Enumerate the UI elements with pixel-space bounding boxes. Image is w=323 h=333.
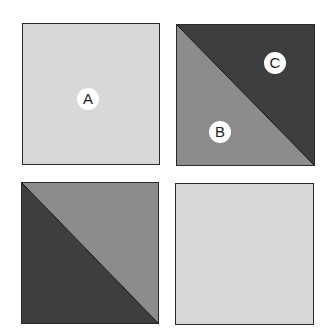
split-square-bottom-left: [22, 183, 158, 323]
label-a: A: [77, 88, 99, 110]
split-square-top-right: [177, 25, 314, 165]
label-b: B: [209, 121, 231, 143]
square-bottom-left: [21, 182, 159, 324]
square-top-right: [176, 24, 315, 166]
square-bottom-right: [175, 183, 314, 325]
label-c: C: [264, 52, 286, 74]
